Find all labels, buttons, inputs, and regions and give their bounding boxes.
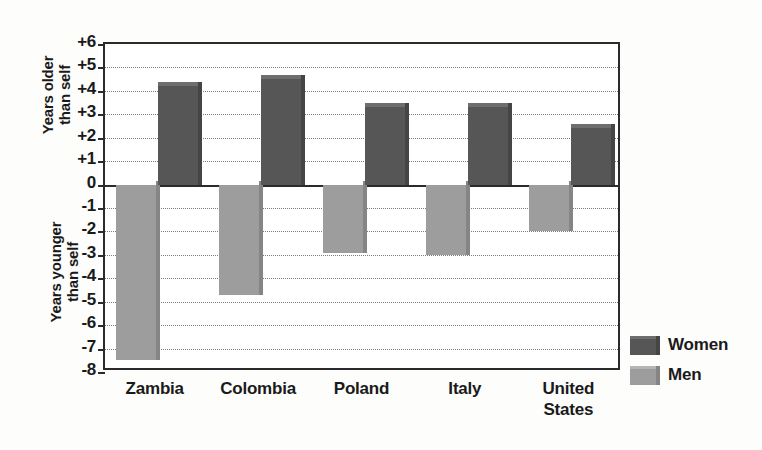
y-axis-tick-label: -8	[56, 360, 96, 380]
bar-face	[571, 128, 611, 184]
x-axis-label-zambia: Zambia	[103, 378, 206, 399]
y-axis-tick-label: -4	[56, 266, 96, 286]
y-axis-tick-mark	[98, 161, 105, 163]
y-axis-tick-label: -1	[56, 196, 96, 216]
bar-face	[529, 185, 569, 232]
x-axis-label-italy: Italy	[413, 378, 516, 399]
y-axis-tick-mark	[98, 231, 105, 233]
bar-women-italy	[468, 107, 508, 184]
legend-swatch-women-icon	[630, 336, 660, 355]
bar-side	[569, 181, 573, 232]
y-axis-tick-mark	[98, 372, 105, 374]
bar-men-italy	[426, 185, 466, 255]
y-axis-tick-label: +1	[56, 149, 96, 169]
bar-men-colombia	[219, 185, 259, 295]
bar-face	[116, 185, 156, 361]
bar-side	[259, 181, 263, 295]
y-axis-tick-label: -5	[56, 290, 96, 310]
y-axis-tick-mark	[98, 325, 105, 327]
y-axis-tick-label: +3	[56, 102, 96, 122]
y-axis-tick-mark	[98, 302, 105, 304]
bar-series-layer	[105, 44, 618, 368]
y-axis-tick-mark	[98, 278, 105, 280]
legend-item-women: Women	[628, 330, 758, 360]
bar-face	[323, 185, 363, 253]
y-axis-tick-label: -2	[56, 219, 96, 239]
y-axis-tick-label: -3	[56, 243, 96, 263]
bar-face	[219, 185, 259, 295]
y-axis-tick-label: +5	[56, 55, 96, 75]
legend-label: Men	[668, 365, 701, 385]
bar-cap	[158, 82, 198, 86]
legend-item-men: Men	[628, 360, 758, 390]
bar-women-colombia	[261, 79, 301, 184]
bar-side	[198, 82, 202, 184]
bar-cap	[571, 124, 611, 128]
bar-face	[468, 107, 508, 184]
bar-men-poland	[323, 185, 363, 253]
bar-face	[365, 107, 405, 184]
x-axis-label-colombia: Colombia	[206, 378, 309, 399]
legend: WomenMen	[628, 330, 758, 390]
x-axis-label-united-states: United States	[517, 378, 620, 420]
bar-side	[611, 124, 615, 184]
bar-women-poland	[365, 107, 405, 184]
y-axis-tick-labels: +6+5+4+3+2+10-1-2-3-4-5-6-7-8	[58, 0, 102, 450]
y-axis-tick-mark	[98, 44, 105, 46]
bar-side	[156, 181, 160, 361]
bar-cap	[365, 103, 405, 107]
y-axis-tick-mark	[98, 114, 105, 116]
bar-cap	[468, 103, 508, 107]
bar-face	[426, 185, 466, 255]
bar-men-united-states	[529, 185, 569, 232]
y-axis-tick-mark	[98, 185, 105, 187]
y-axis-tick-label: +2	[56, 126, 96, 146]
bar-side	[301, 75, 305, 184]
y-axis-tick-mark	[98, 138, 105, 140]
plot-area	[103, 42, 620, 370]
y-axis-tick-mark	[98, 255, 105, 257]
legend-label: Women	[668, 335, 728, 355]
y-axis-tick-mark	[98, 208, 105, 210]
legend-swatch-men-icon	[630, 366, 660, 385]
y-axis-tick-mark	[98, 349, 105, 351]
bar-side	[466, 181, 470, 255]
bar-cap	[261, 75, 301, 79]
y-axis-tick-label: +6	[56, 32, 96, 52]
bar-side	[363, 181, 367, 253]
y-axis-tick-label: +4	[56, 79, 96, 99]
bar-side	[508, 103, 512, 184]
bar-women-united-states	[571, 128, 611, 184]
y-axis-tick-mark	[98, 91, 105, 93]
x-axis-label-poland: Poland	[310, 378, 413, 399]
bar-men-zambia	[116, 185, 156, 361]
y-axis-tick-label: -7	[56, 337, 96, 357]
y-axis-tick-mark	[98, 67, 105, 69]
bar-women-zambia	[158, 86, 198, 184]
bar-side	[405, 103, 409, 184]
y-axis-tick-label: 0	[56, 173, 96, 193]
y-axis-tick-label: -6	[56, 313, 96, 333]
bar-face	[261, 79, 301, 184]
x-axis-category-labels: ZambiaColombiaPolandItalyUnited States	[103, 378, 620, 442]
bar-chart: Years older than self Years younger than…	[0, 0, 762, 450]
bar-face	[158, 86, 198, 184]
